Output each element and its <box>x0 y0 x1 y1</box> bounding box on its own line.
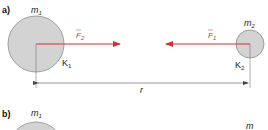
panel-b: b) m1 m <box>2 108 254 130</box>
frame-k1-label: K1 <box>62 58 72 69</box>
mass-1-body-b <box>8 122 64 130</box>
panel-b-label: b) <box>2 109 11 119</box>
mass-1-label-b: m1 <box>31 108 42 119</box>
frame-k2-label: K2 <box>235 60 245 71</box>
panel-a-label: a) <box>2 5 10 15</box>
mass-2-label-b: m <box>246 121 254 130</box>
force-label-f1: F1 <box>208 31 216 41</box>
force-label-f2: F2 <box>76 31 85 41</box>
mass-1-label: m1 <box>31 5 42 16</box>
panel-a: a) m1 m2 F2 F1 K1 K2 r <box>2 5 264 95</box>
distance-label: r <box>140 85 144 95</box>
mass-2-label: m2 <box>244 18 256 29</box>
gravitation-diagram: a) m1 m2 F2 F1 K1 K2 r b) m1 m <box>0 0 268 130</box>
